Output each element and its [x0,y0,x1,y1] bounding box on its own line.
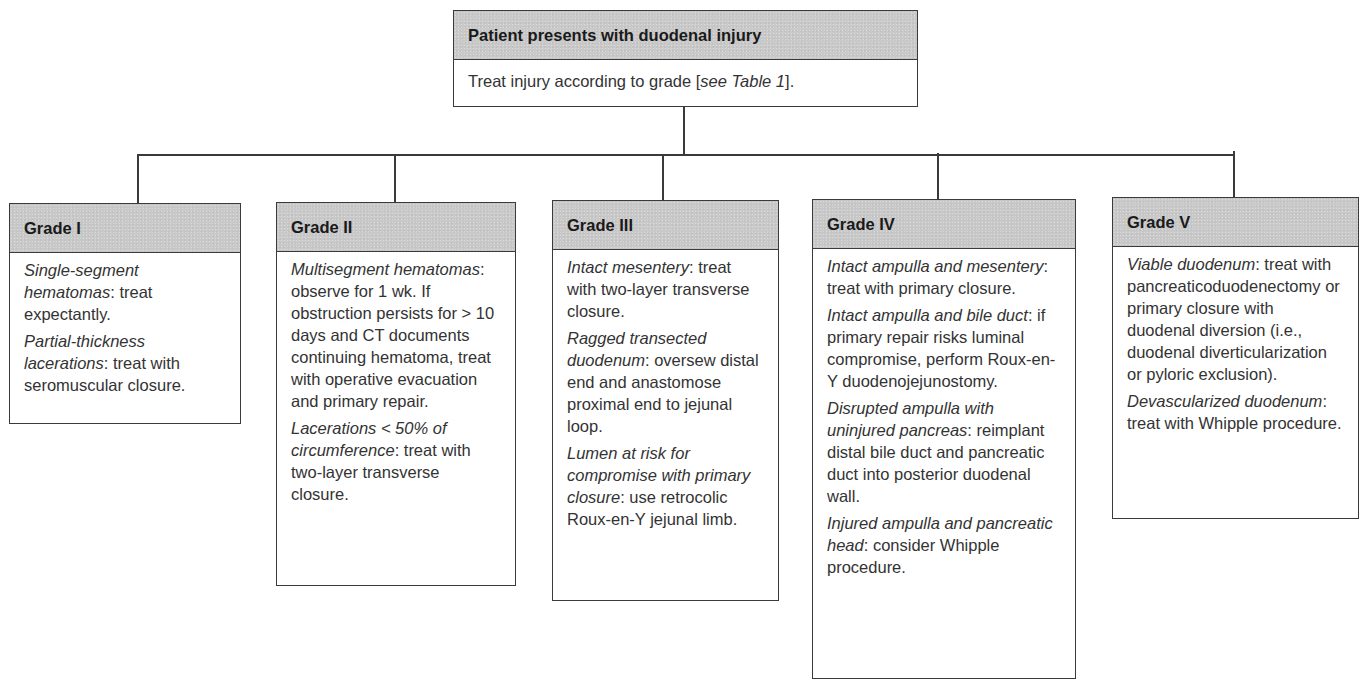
grade-1-body: Single-segment hematomas: treat expectan… [10,253,240,404]
item-condition: Intact ampulla and mesentery [827,257,1043,275]
grade-1-title: Grade I [24,219,81,238]
item-condition: Intact mesentery [567,258,689,276]
grade-3-header: Grade III [553,201,778,250]
grade-4-item: Intact ampulla and mesentery: treat with… [827,255,1061,299]
grade-2-body: Multisegment hematomas: observe for 1 wk… [277,252,515,513]
grade-4-item: Intact ampulla and bile duct: if primary… [827,304,1061,392]
grade-5-item: Viable duodenum: treat with pancreaticod… [1127,253,1344,385]
grade-4-item: Disrupted ampulla with uninjured pancrea… [827,397,1061,507]
item-condition: Intact ampulla and bile duct [827,306,1028,324]
grade-4-title: Grade IV [827,215,895,234]
grade-2-title: Grade II [291,218,352,237]
grade-2-item: Multisegment hematomas: observe for 1 wk… [291,258,501,412]
grade-3-body: Intact mesentery: treat with two-layer t… [553,250,778,538]
grade-4-body: Intact ampulla and mesentery: treat with… [813,249,1075,586]
grade-5-item: Devascularized duodenum: treat with Whip… [1127,390,1344,434]
root-body-reference: see Table 1 [700,72,785,90]
grade-4-item: Injured ampulla and pancreatic head: con… [827,512,1061,578]
root-box: Patient presents with duodenal injury Tr… [453,10,918,107]
grade-3-item: Intact mesentery: treat with two-layer t… [567,256,764,322]
grade-2-box: Grade II Multisegment hematomas: observe… [276,202,516,586]
root-body-suffix: ]. [785,72,794,90]
grade-5-title: Grade V [1127,213,1190,232]
connector-grade-4 [937,153,939,200]
connector-grade-2 [394,154,396,203]
item-treatment: : observe for 1 wk. If obstruction persi… [291,260,494,410]
root-title: Patient presents with duodenal injury [468,26,761,45]
root-body-prefix: Treat injury according to grade [ [468,72,700,90]
grade-1-item: Partial-thickness lacerations: treat wit… [24,330,226,396]
grade-1-box: Grade I Single-segment hematomas: treat … [9,203,241,424]
grade-3-title: Grade III [567,216,633,235]
grade-3-item: Lumen at risk for compromise with primar… [567,442,764,530]
connector-root-down [683,106,685,156]
grade-5-header: Grade V [1113,198,1358,247]
root-box-header: Patient presents with duodenal injury [454,11,917,60]
connector-horizontal-bar [137,154,1234,156]
grade-2-item: Lacerations < 50% of circumference: trea… [291,417,501,505]
connector-grade-5 [1233,151,1235,198]
item-condition: Devascularized duodenum [1127,392,1322,410]
item-condition: Multisegment hematomas [291,260,480,278]
grade-4-header: Grade IV [813,200,1075,249]
connector-grade-1 [137,155,139,204]
item-condition: Viable duodenum [1127,255,1255,273]
grade-1-item: Single-segment hematomas: treat expectan… [24,259,226,325]
item-treatment: : treat with pancreaticoduodenectomy or … [1127,255,1340,383]
root-box-body: Treat injury according to grade [see Tab… [454,60,917,100]
grade-1-header: Grade I [10,204,240,253]
grade-4-box: Grade IV Intact ampulla and mesentery: t… [812,199,1076,679]
grade-2-header: Grade II [277,203,515,252]
connector-grade-3 [662,154,664,201]
grade-3-box: Grade III Intact mesentery: treat with t… [552,200,779,601]
grade-5-box: Grade V Viable duodenum: treat with panc… [1112,197,1359,519]
grade-5-body: Viable duodenum: treat with pancreaticod… [1113,247,1358,442]
grade-3-item: Ragged transected duodenum: oversew dist… [567,327,764,437]
